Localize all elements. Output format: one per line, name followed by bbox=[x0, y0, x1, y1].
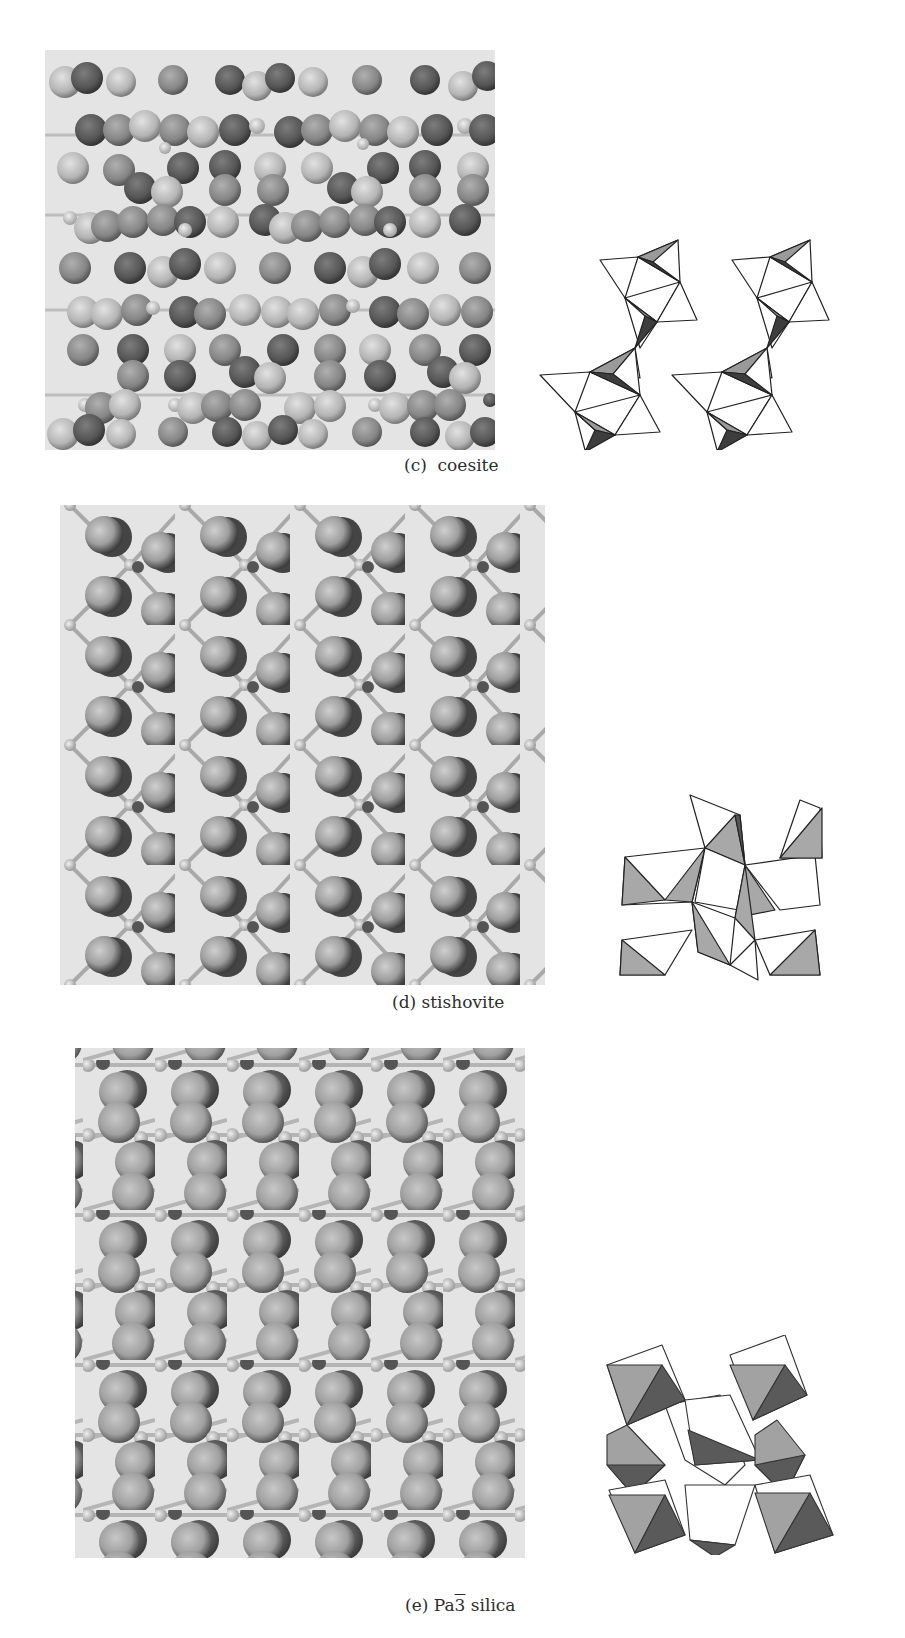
caption-stishovite-text: (d) stishovite bbox=[392, 992, 504, 1012]
coesite-atoms-graphic bbox=[45, 50, 495, 450]
caption-pa3-bar-digit: 3 bbox=[455, 1595, 466, 1615]
coesite-ball-stick-image bbox=[45, 50, 495, 450]
pa3-silica-octahedra-graphic bbox=[605, 1335, 835, 1555]
pa3-silica-polyhedral-image bbox=[605, 1335, 835, 1555]
stishovite-ball-stick-image bbox=[60, 505, 545, 985]
stishovite-octahedra-graphic bbox=[580, 730, 830, 990]
pa3-silica-ball-stick-image bbox=[75, 1048, 525, 1558]
caption-coesite: (c) coesite bbox=[404, 455, 498, 475]
caption-pa3-label: (e) bbox=[405, 1595, 428, 1615]
caption-coesite-text: (c) coesite bbox=[404, 455, 498, 475]
stishovite-atoms-graphic bbox=[60, 505, 545, 985]
pa3-silica-atoms-graphic bbox=[75, 1048, 525, 1558]
caption-stishovite: (d) stishovite bbox=[392, 992, 504, 1012]
coesite-polyhedral-image bbox=[535, 220, 840, 450]
stishovite-polyhedral-image bbox=[580, 730, 830, 990]
caption-pa3-prefix: Pa bbox=[434, 1595, 455, 1615]
caption-pa3-silica: (e) Pa3 silica bbox=[405, 1595, 515, 1615]
coesite-tetrahedra-graphic bbox=[535, 220, 840, 450]
caption-pa3-suffix: silica bbox=[465, 1595, 515, 1615]
